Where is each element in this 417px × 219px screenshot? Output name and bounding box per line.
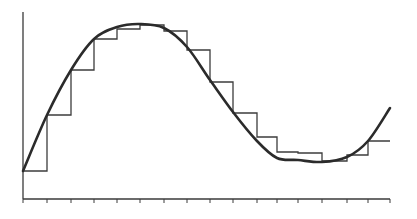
axes: [23, 12, 390, 203]
chart: [0, 0, 417, 219]
step-function: [23, 25, 390, 171]
smooth-curve: [23, 24, 390, 171]
